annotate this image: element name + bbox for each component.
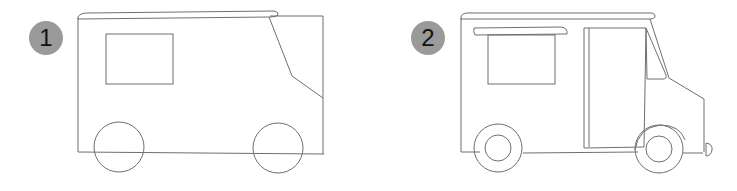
step-2-panel: 2 <box>370 0 737 191</box>
truck-sketch-step-2 <box>370 0 737 191</box>
truck-sketch-step-1 <box>0 0 370 191</box>
step-1-panel: 1 <box>0 0 370 191</box>
